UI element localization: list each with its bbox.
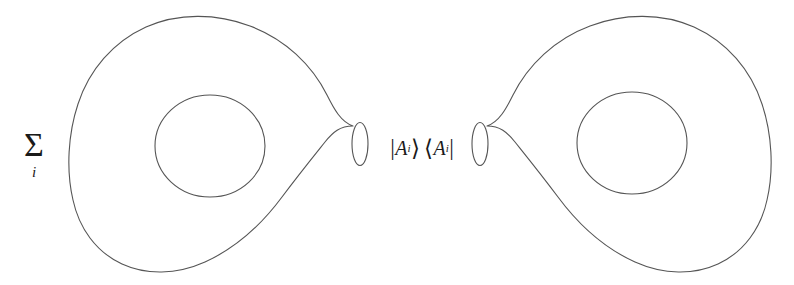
- left-neck-boundary-circle: [352, 123, 368, 166]
- torus-factorization-diagram: Σ i |Ai⟩⟨Ai|: [0, 0, 794, 285]
- left-surface-outline: [69, 16, 353, 272]
- sigma-glyph: Σ: [12, 128, 56, 162]
- bra-operator-symbol: A: [433, 137, 445, 160]
- bra-open-angle: ⟨: [424, 135, 434, 162]
- ket-operator-symbol: A: [395, 137, 407, 160]
- summation-symbol: Σ i: [12, 128, 56, 180]
- right-handle-hole: [577, 92, 687, 194]
- sum-index-label: i: [12, 165, 56, 180]
- bra-close-bar: |: [449, 135, 455, 161]
- ket-close-angle: ⟩: [411, 135, 421, 162]
- braket-operator-label: |Ai⟩⟨Ai|: [372, 131, 472, 165]
- right-neck-boundary-circle: [472, 123, 488, 166]
- right-surface-outline: [487, 16, 771, 272]
- left-handle-hole: [155, 95, 265, 197]
